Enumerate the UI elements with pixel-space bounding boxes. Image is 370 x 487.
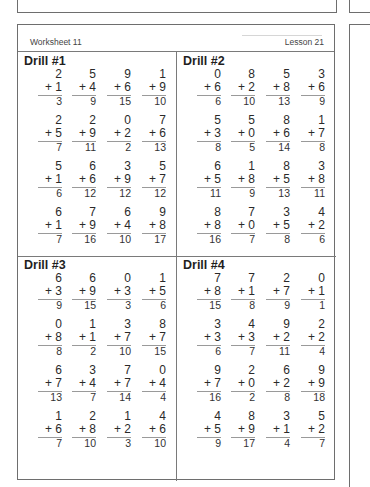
sum-answer: 9 bbox=[72, 96, 96, 107]
addition-problem: 2+ 810 bbox=[72, 410, 96, 449]
sum-answer: 1 bbox=[301, 300, 325, 311]
problem-row: 9+ 7162+ 026+ 289+ 918 bbox=[177, 364, 335, 410]
addend-bottom: + 4 bbox=[72, 377, 96, 390]
addition-problem: 2+ 911 bbox=[72, 114, 96, 153]
addend-bottom: + 4 bbox=[142, 377, 166, 390]
addition-problem: 6+ 39 bbox=[38, 272, 62, 311]
addend-bottom: + 3 bbox=[38, 285, 62, 298]
addition-problem: 8+ 614 bbox=[266, 114, 290, 153]
sum-answer: 8 bbox=[266, 392, 290, 403]
problem-row: 2+ 135+ 499+ 6151+ 910 bbox=[18, 68, 176, 114]
addition-problem: 6+ 17 bbox=[38, 206, 62, 245]
sum-answer: 6 bbox=[301, 234, 325, 245]
addend-bottom: + 1 bbox=[38, 81, 62, 94]
addition-problem: 9+ 716 bbox=[197, 364, 221, 403]
sum-answer: 12 bbox=[107, 188, 131, 199]
addend-bottom: + 9 bbox=[231, 423, 255, 436]
addition-problem: 1+ 67 bbox=[38, 410, 62, 449]
sum-answer: 3 bbox=[107, 300, 131, 311]
addition-problem: 1+ 23 bbox=[107, 410, 131, 449]
addend-bottom: + 9 bbox=[142, 81, 166, 94]
sum-answer: 12 bbox=[72, 188, 96, 199]
addend-bottom: + 2 bbox=[266, 377, 290, 390]
addend-bottom: + 8 bbox=[301, 173, 325, 186]
addition-problem: 7+ 815 bbox=[197, 272, 221, 311]
sum-answer: 18 bbox=[301, 392, 325, 403]
addition-problem: 5+ 16 bbox=[38, 160, 62, 199]
addition-problem: 1+ 910 bbox=[142, 68, 166, 107]
addition-problem: 6+ 511 bbox=[197, 160, 221, 199]
sum-answer: 7 bbox=[38, 438, 62, 449]
sum-answer: 9 bbox=[38, 300, 62, 311]
addend-bottom: + 3 bbox=[231, 331, 255, 344]
addend-bottom: + 2 bbox=[301, 331, 325, 344]
addition-problem: 7+ 714 bbox=[107, 364, 131, 403]
addition-problem: 3+ 69 bbox=[301, 68, 325, 107]
addition-problem: 3+ 912 bbox=[107, 160, 131, 199]
sum-answer: 3 bbox=[38, 96, 62, 107]
sum-answer: 8 bbox=[197, 142, 221, 153]
addend-bottom: + 6 bbox=[197, 81, 221, 94]
addition-problem: 0+ 44 bbox=[142, 364, 166, 403]
lesson-label: Lesson 21 bbox=[285, 37, 324, 47]
addition-problem: 4+ 37 bbox=[231, 318, 255, 357]
addend-bottom: + 7 bbox=[107, 377, 131, 390]
sum-answer: 7 bbox=[231, 234, 255, 245]
problem-row: 0+ 668+ 2105+ 8133+ 69 bbox=[177, 68, 335, 114]
sum-answer: 9 bbox=[231, 188, 255, 199]
addition-problem: 0+ 22 bbox=[107, 114, 131, 153]
addition-problem: 6+ 915 bbox=[72, 272, 96, 311]
addition-problem: 5+ 05 bbox=[231, 114, 255, 153]
adjacent-page-top-box bbox=[349, 0, 370, 13]
sum-answer: 8 bbox=[231, 300, 255, 311]
problem-row: 8+ 8167+ 073+ 584+ 26 bbox=[177, 206, 335, 252]
addend-bottom: + 2 bbox=[301, 423, 325, 436]
sum-answer: 15 bbox=[142, 346, 166, 357]
sum-answer: 7 bbox=[38, 142, 62, 153]
sum-answer: 4 bbox=[266, 438, 290, 449]
addition-problem: 6+ 28 bbox=[266, 364, 290, 403]
problem-row: 6+ 7133+ 477+ 7140+ 44 bbox=[18, 364, 176, 410]
sum-answer: 10 bbox=[72, 438, 96, 449]
addend-bottom: + 2 bbox=[107, 127, 131, 140]
addend-bottom: + 4 bbox=[72, 81, 96, 94]
addition-problem: 2+ 02 bbox=[231, 364, 255, 403]
addend-bottom: + 5 bbox=[266, 173, 290, 186]
addend-bottom: + 1 bbox=[231, 285, 255, 298]
problem-row: 2+ 572+ 9110+ 227+ 613 bbox=[18, 114, 176, 160]
sum-answer: 5 bbox=[231, 142, 255, 153]
worksheet-title: Worksheet 11 bbox=[30, 37, 82, 47]
sum-answer: 10 bbox=[142, 96, 166, 107]
addition-problem: 9+ 918 bbox=[301, 364, 325, 403]
addition-problem: 2+ 13 bbox=[38, 68, 62, 107]
addend-bottom: + 9 bbox=[72, 127, 96, 140]
drill-title: Drill #1 bbox=[24, 54, 66, 68]
sum-answer: 6 bbox=[142, 300, 166, 311]
sum-answer: 8 bbox=[301, 142, 325, 153]
addend-bottom: + 8 bbox=[231, 173, 255, 186]
addition-problem: 3+ 58 bbox=[266, 206, 290, 245]
addition-problem: 6+ 713 bbox=[38, 364, 62, 403]
addend-bottom: + 2 bbox=[231, 81, 255, 94]
addend-bottom: + 3 bbox=[197, 331, 221, 344]
sum-answer: 14 bbox=[266, 142, 290, 153]
sum-answer: 16 bbox=[72, 234, 96, 245]
sum-answer: 16 bbox=[197, 234, 221, 245]
sum-answer: 14 bbox=[107, 392, 131, 403]
addition-problem: 7+ 18 bbox=[231, 272, 255, 311]
sum-answer: 10 bbox=[107, 234, 131, 245]
drill-title: Drill #4 bbox=[183, 258, 225, 272]
sum-answer: 8 bbox=[266, 234, 290, 245]
sum-answer: 9 bbox=[266, 300, 290, 311]
problem-row: 3+ 364+ 379+ 2112+ 24 bbox=[177, 318, 335, 364]
addend-bottom: + 1 bbox=[301, 285, 325, 298]
addition-problem: 0+ 66 bbox=[197, 68, 221, 107]
addition-problem: 1+ 56 bbox=[142, 272, 166, 311]
addend-bottom: + 0 bbox=[231, 127, 255, 140]
addend-bottom: + 9 bbox=[72, 219, 96, 232]
sum-answer: 11 bbox=[197, 188, 221, 199]
addition-problem: 7+ 613 bbox=[142, 114, 166, 153]
sum-answer: 7 bbox=[231, 346, 255, 357]
problem-grid: 6+ 396+ 9150+ 331+ 560+ 881+ 123+ 7108+ … bbox=[18, 272, 176, 456]
addition-problem: 0+ 88 bbox=[38, 318, 62, 357]
